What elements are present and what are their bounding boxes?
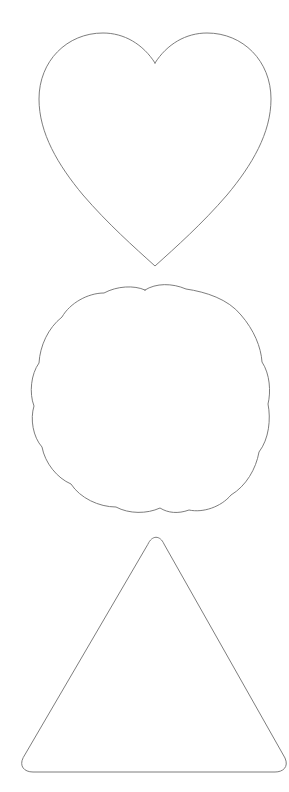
rounded-triangle-shape[interactable] [22,537,287,772]
rounded-triangle-shape-layer [0,0,289,792]
shape-canvas [0,0,289,792]
